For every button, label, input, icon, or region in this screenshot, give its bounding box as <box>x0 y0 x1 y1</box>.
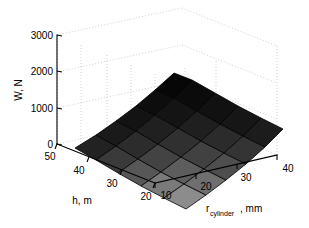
h-axis-label: h, m <box>72 195 91 206</box>
h-tick-40 <box>87 157 89 162</box>
grid-h-z2000-left <box>57 45 182 72</box>
h-tick-label-30: 30 <box>106 178 118 189</box>
r-tick-label-20: 20 <box>200 181 212 192</box>
grid-rim-right-top <box>182 8 277 46</box>
z-tick-label-3000: 3000 <box>31 30 54 41</box>
grid-h-z2000-right <box>182 45 277 83</box>
z-tick-3000 <box>57 35 62 36</box>
h-tick-50 <box>55 144 57 149</box>
z-tick-labels: 3000 2000 1000 0 <box>31 30 54 150</box>
z-tick-label-0: 0 <box>47 139 53 150</box>
z-tick-label-2000: 2000 <box>31 66 54 77</box>
h-tick-label-40: 40 <box>73 165 85 176</box>
r-axis-label-subscript: cylinder <box>210 210 235 218</box>
figure-container: 3000 2000 1000 0 W, N 50 40 30 20 h, m 1… <box>0 0 309 228</box>
r-axis-label-units: , mm <box>240 203 262 214</box>
r-tick-label-10: 10 <box>160 190 172 201</box>
z-axis-ticks <box>57 35 62 145</box>
z-tick-1000 <box>57 108 62 109</box>
z-axis-label: W, N <box>13 79 24 101</box>
r-tick-label-40: 40 <box>282 163 294 174</box>
r-tick-label-30: 30 <box>240 172 252 183</box>
grid-rim-left-top <box>57 8 182 35</box>
z-tick-label-1000: 1000 <box>31 103 54 114</box>
h-tick-label-50: 50 <box>44 151 56 162</box>
h-tick-label-20: 20 <box>140 191 152 202</box>
r-axis-label: r cylinder , mm <box>206 203 262 218</box>
surface-plot-canvas: 3000 2000 1000 0 W, N 50 40 30 20 h, m 1… <box>0 0 309 228</box>
